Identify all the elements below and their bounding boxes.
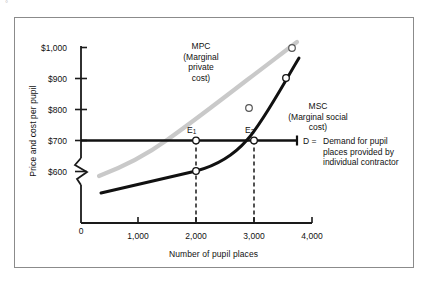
marker-mpc-3000	[246, 105, 253, 112]
y-axis-title: Price and cost per pupil	[28, 79, 38, 183]
x-tick-label-3000: 3,000	[232, 231, 276, 241]
mpc-label-line-2: (Marginal	[165, 52, 237, 63]
marker-mpc-4000	[289, 45, 296, 52]
mpc-curve-label: MPC (Marginal private cost)	[165, 41, 237, 83]
msc-label-line-1: MSC	[270, 101, 366, 112]
msc-label-line-3: cost)	[270, 122, 366, 133]
corner-artifact-mark: °	[5, 0, 19, 8]
msc-label-line-2: (Marginal social	[270, 112, 366, 123]
demand-description: Demand for pupil places provided by indi…	[323, 136, 399, 168]
figure-container: °	[0, 0, 427, 291]
demand-line-1: Demand for pupil	[323, 136, 399, 147]
e2-letter: E	[245, 125, 251, 135]
demand-label-d: D =	[303, 136, 316, 146]
figure-frame: $1,000 $900 $800 $700 $600 0 1,000 2,000…	[14, 17, 414, 268]
demand-line-2: places provided by	[323, 147, 399, 158]
e2-subscript: 2	[251, 128, 255, 135]
equilibrium-label-e2: E2	[245, 125, 254, 135]
y-tick-label-1000: $1,000	[21, 43, 67, 53]
x-axis-title: Number of pupil places	[0, 249, 427, 259]
equilibrium-label-e1: E1	[187, 125, 196, 135]
x-tick-label-0: 0	[59, 226, 103, 236]
marker-msc-2000	[193, 168, 200, 175]
e1-letter: E	[187, 125, 193, 135]
marker-e1	[193, 137, 200, 144]
marker-msc-4000	[283, 75, 290, 82]
mpc-label-line-4: cost)	[165, 73, 237, 84]
x-tick-label-2000: 2,000	[174, 231, 218, 241]
mpc-label-line-3: private	[165, 62, 237, 73]
demand-line-3: individual contractor	[323, 157, 399, 168]
x-tick-label-4000: 4,000	[290, 231, 334, 241]
msc-curve-label: MSC (Marginal social cost)	[270, 101, 366, 133]
mpc-label-line-1: MPC	[165, 41, 237, 52]
e1-subscript: 1	[193, 128, 197, 135]
marker-e2	[251, 137, 258, 144]
x-tick-label-1000: 1,000	[116, 231, 160, 241]
